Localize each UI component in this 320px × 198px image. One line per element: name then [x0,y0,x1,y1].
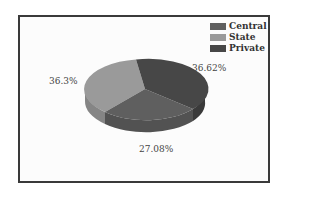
legend-item-state: State [210,32,267,43]
legend-swatch-state [210,34,226,41]
legend-swatch-private [210,45,226,52]
private-percent-label: 36.62% [192,63,226,73]
legend-label-central: Central [229,21,267,32]
chart-legend: Central State Private [210,21,267,54]
central-percent-label: 27.08% [139,144,173,154]
legend-swatch-central [210,23,226,30]
legend-item-central: Central [210,21,267,32]
legend-label-private: Private [229,43,265,54]
state-percent-label: 36.3% [49,76,78,86]
legend-label-state: State [229,32,255,43]
legend-item-private: Private [210,43,267,54]
